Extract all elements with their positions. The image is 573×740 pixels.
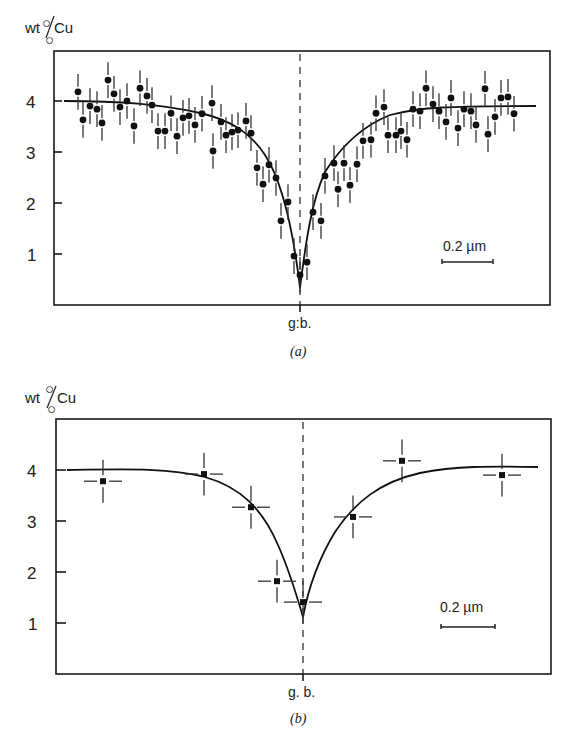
data-point (310, 209, 317, 216)
data-point (87, 103, 94, 110)
data-point (186, 112, 193, 119)
data-point (80, 116, 87, 123)
chart-a-ytick-2: 2 (26, 195, 35, 214)
data-point (248, 504, 254, 510)
data-point (273, 175, 280, 182)
data-point (368, 136, 375, 143)
data-point (144, 93, 151, 100)
data-point (243, 117, 250, 124)
chart-b-ylabel-unit: Cu (57, 389, 76, 406)
data-point (498, 95, 505, 102)
data-point (248, 130, 255, 137)
data-point (341, 160, 348, 167)
chart-a: wt ○ ○ Cu 4 3 2 1 g:b. (a) 0.2 µm (24, 14, 550, 360)
data-point (99, 120, 106, 127)
chart-b-ylabel-main: wt (24, 389, 41, 406)
data-point (297, 272, 304, 279)
data-point (492, 113, 499, 120)
data-point (318, 217, 325, 224)
data-point (499, 472, 505, 478)
data-point (111, 90, 118, 97)
chart-b-panel-label: (b) (290, 711, 307, 727)
data-point (443, 119, 450, 126)
data-point (155, 128, 162, 135)
data-point (468, 108, 475, 115)
chart-b-scale-bar-label: 0.2 µm (440, 599, 483, 615)
data-point (266, 161, 273, 168)
data-point (291, 253, 298, 260)
data-point (455, 125, 462, 132)
data-point (385, 132, 392, 139)
data-point (417, 108, 424, 115)
chart-b: wt ○ ○ Cu 4 3 2 1 g. b. (b) 0.2 µm (24, 380, 551, 727)
chart-b-ytick-4: 4 (27, 462, 36, 481)
chart-a-data-points (75, 62, 518, 293)
chart-a-ytick-3: 3 (26, 144, 35, 163)
data-point (461, 106, 468, 113)
chart-b-gb-label: g. b. (288, 684, 315, 700)
data-point (210, 148, 217, 155)
data-point (404, 136, 411, 143)
data-point (162, 128, 169, 135)
data-point (300, 599, 306, 605)
data-point (254, 164, 261, 171)
data-point (201, 471, 207, 477)
chart-a-ylabel-main: wt (24, 19, 41, 36)
data-point (137, 85, 144, 92)
data-point (331, 160, 338, 167)
chart-a-scale-bar-label: 0.2 µm (443, 238, 486, 254)
data-point (235, 127, 242, 134)
chart-a-y-ticks (54, 101, 62, 254)
data-point (350, 514, 356, 520)
chart-a-gb-label: g:b. (288, 315, 311, 331)
data-point (354, 161, 361, 168)
data-point (260, 181, 267, 188)
figure: wt ○ ○ Cu 4 3 2 1 g:b. (a) 0.2 µm (0, 0, 573, 740)
data-point (423, 85, 430, 92)
data-point (174, 133, 181, 140)
data-point (229, 129, 236, 136)
chart-a-ytick-4: 4 (26, 93, 35, 112)
data-point (381, 104, 388, 111)
data-point (482, 85, 489, 92)
data-point (360, 137, 367, 144)
chart-a-ylabel-unit: Cu (54, 19, 73, 36)
data-point (124, 98, 131, 105)
chart-a-percent-circle-bottom: ○ (45, 31, 54, 48)
data-point (131, 123, 138, 130)
chart-b-y-ticks (56, 470, 66, 623)
data-point (410, 106, 417, 113)
data-point (473, 122, 480, 129)
data-point (322, 173, 329, 180)
chart-b-ytick-1: 1 (28, 615, 37, 634)
data-point (75, 88, 82, 95)
data-point (180, 114, 187, 121)
data-point (335, 186, 342, 193)
data-point (274, 578, 280, 584)
chart-a-panel-label: (a) (290, 344, 307, 360)
data-point (285, 199, 292, 206)
data-point (485, 131, 492, 138)
data-point (430, 101, 437, 108)
chart-b-ytick-2: 2 (27, 564, 36, 583)
data-point (505, 94, 512, 101)
data-point (209, 100, 216, 107)
data-point (304, 259, 311, 266)
chart-b-percent-circle-bottom: ○ (47, 400, 56, 417)
data-point (168, 110, 175, 117)
data-point (105, 77, 112, 84)
chart-b-ytick-3: 3 (27, 513, 36, 532)
data-point (192, 122, 199, 129)
data-point (398, 128, 405, 135)
data-point (117, 104, 124, 111)
data-point (223, 132, 230, 139)
data-point (399, 458, 405, 464)
data-point (100, 478, 106, 484)
data-point (218, 119, 225, 126)
data-point (149, 102, 156, 109)
data-point (436, 108, 443, 115)
chart-a-ytick-1: 1 (27, 246, 36, 265)
data-point (94, 106, 101, 113)
data-point (511, 110, 518, 117)
data-point (373, 110, 380, 117)
